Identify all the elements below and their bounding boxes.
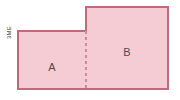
composite-rectangle-figure: A B 3ME [0,0,180,100]
region-label-a: A [48,62,56,73]
figure-canvas [0,0,180,100]
composite-shape-outline [18,7,168,89]
region-label-b: B [123,47,131,58]
dimension-label-left: 3ME [6,26,12,39]
